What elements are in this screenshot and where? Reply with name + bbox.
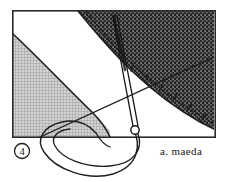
technical-sketch-svg: 4 a. maeda [0, 0, 225, 182]
signature-label: a. maeda [160, 145, 202, 157]
dark-stippled-region [78, 10, 216, 129]
pivot-circle [131, 126, 139, 134]
figure-root: 4 a. maeda [0, 0, 225, 182]
panel-number-label: 4 [19, 146, 25, 157]
